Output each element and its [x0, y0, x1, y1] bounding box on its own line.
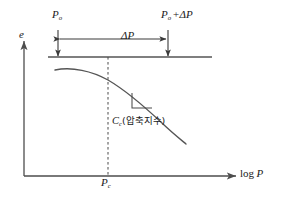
x-axis-label-var: P	[257, 167, 264, 179]
p-final-label: Po+ΔP	[161, 9, 193, 20]
consolidation-curve-figure: e logP Po Po+ΔP ΔP Pc Cc(압축지수)	[0, 0, 282, 199]
x-axis-label: logP	[240, 168, 263, 179]
x-axis-label-log: log	[240, 167, 254, 179]
cc-subscript: c	[119, 120, 122, 127]
p-final-suffix: +ΔP	[172, 8, 193, 20]
p-initial-label: Po	[52, 9, 62, 20]
pc-base: P	[101, 176, 108, 188]
cc-note-korean: (압축지수)	[122, 115, 165, 126]
pc-subscript: c	[108, 182, 111, 189]
consolidation-curve	[55, 69, 186, 144]
cc-label: Cc(압축지수)	[112, 116, 165, 127]
p-initial-base: P	[52, 8, 59, 20]
y-axis-label: e	[19, 29, 24, 40]
p-final-subscript: o	[168, 14, 171, 21]
delta-p-label: ΔP	[121, 30, 134, 41]
pc-label: Pc	[101, 177, 111, 188]
cc-base: C	[112, 115, 119, 126]
p-initial-subscript: o	[59, 14, 62, 21]
p-final-base: P	[161, 8, 168, 20]
